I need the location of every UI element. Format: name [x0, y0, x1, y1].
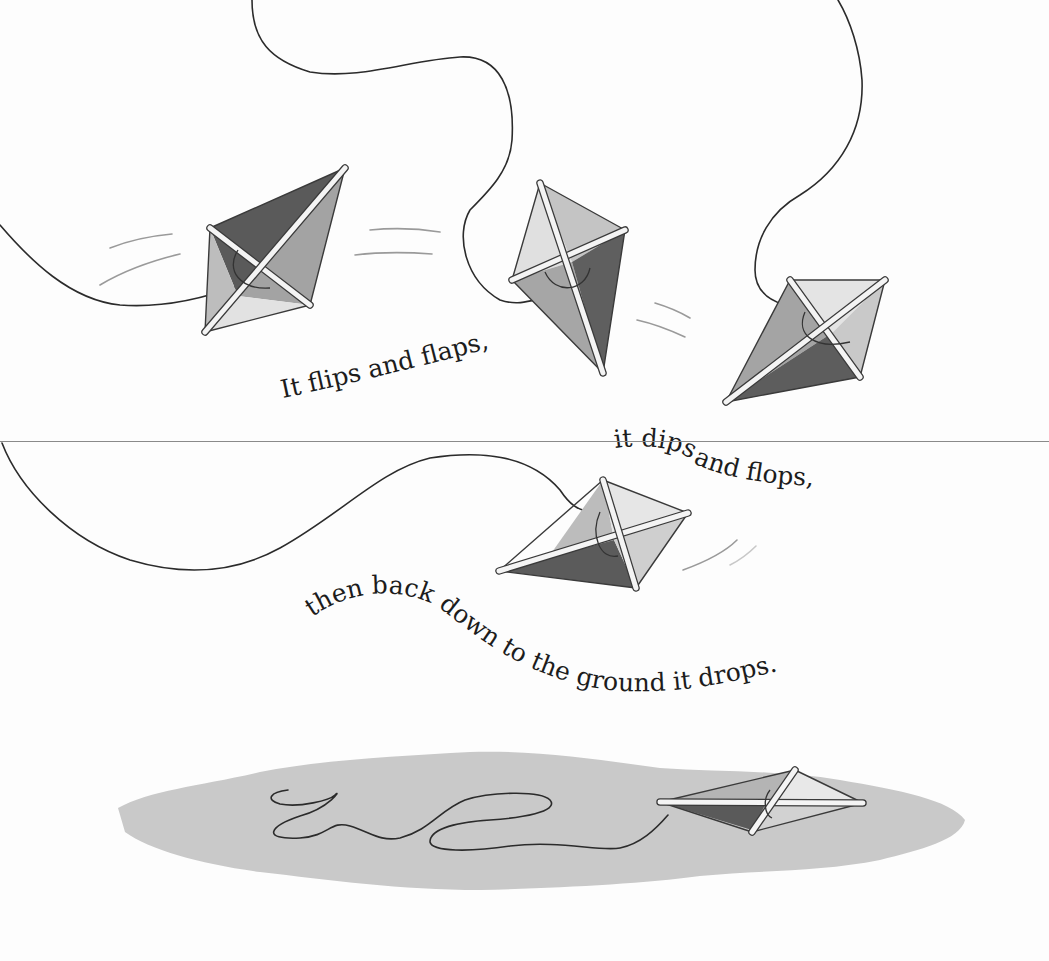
string-3: [755, 0, 862, 305]
picture-book-page: It flips and flaps, it dips and flops, t…: [0, 0, 1049, 961]
string-1: [0, 225, 240, 306]
kite-2: [512, 183, 625, 373]
kite-4: [499, 480, 688, 588]
verse-line-2b: and flops,: [691, 442, 815, 492]
kite-1: [205, 168, 345, 332]
page-fold-divider: [0, 441, 1049, 442]
verse-line-1: It flips and flaps,: [278, 326, 491, 404]
verse-line-2a: it dips: [612, 423, 702, 464]
kite-3: [726, 280, 885, 402]
ground-shadow: [118, 752, 965, 890]
kite-strings: [0, 0, 862, 850]
illustration-canvas: It flips and flaps, it dips and flops, t…: [0, 0, 1049, 961]
string-4: [2, 443, 590, 570]
verse-line-3: then back down to the ground it drops.: [299, 570, 779, 697]
